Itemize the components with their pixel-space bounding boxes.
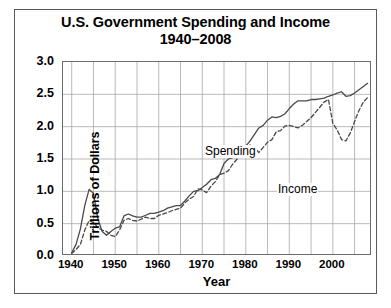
- x-tick-1980: 1980: [221, 258, 269, 271]
- x-tick-1970: 1970: [177, 258, 225, 271]
- x-axis-tick-labels: 1940195019601970198019902000: [62, 258, 371, 274]
- plot-area: [62, 61, 371, 255]
- plot-wrapper: Spending Income Trillions of Dollars: [62, 61, 371, 255]
- series-label-spending: Spending: [204, 145, 257, 158]
- chart-figure: U.S. Government Spending and Income 1940…: [0, 0, 391, 308]
- plot-svg: [63, 62, 371, 255]
- x-tick-1950: 1950: [90, 258, 138, 271]
- x-axis-title: Year: [62, 274, 371, 289]
- y-tick-2.0: 2.0: [8, 120, 54, 132]
- chart-title-line-2: 1940–2008: [14, 31, 377, 48]
- y-tick-2.5: 2.5: [8, 87, 54, 99]
- series-line-spending: [72, 83, 368, 252]
- y-tick-1.0: 1.0: [8, 184, 54, 196]
- x-tick-2000: 2000: [308, 258, 356, 271]
- x-tick-1940: 1940: [47, 258, 95, 271]
- y-axis-title: Trillions of Dollars: [88, 91, 102, 281]
- x-tick-1960: 1960: [134, 258, 182, 271]
- y-tick-1.5: 1.5: [8, 152, 54, 164]
- y-tick-3.0: 3.0: [8, 55, 54, 67]
- y-tick-0.5: 0.5: [8, 217, 54, 229]
- x-tick-1990: 1990: [264, 258, 312, 271]
- chart-title-line-1: U.S. Government Spending and Income: [14, 14, 377, 31]
- series-label-income: Income: [277, 183, 318, 196]
- y-axis-tick-labels: 0.00.51.01.52.02.53.0: [8, 61, 58, 255]
- series-line-income: [72, 98, 368, 254]
- chart-title: U.S. Government Spending and Income 1940…: [14, 14, 377, 48]
